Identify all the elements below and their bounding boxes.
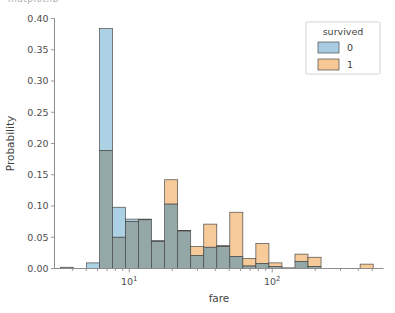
y-tick-label: 0.30 [27, 75, 48, 86]
y-tick-label: 0.35 [27, 44, 48, 55]
histogram-bar [99, 29, 112, 151]
histogram-bar [113, 237, 126, 268]
y-axis-title: Probability [4, 116, 16, 172]
histogram-bar [165, 204, 178, 268]
x-tick-label: 102 [264, 275, 281, 287]
histogram-chart: 0.000.050.100.150.200.250.300.350.401011… [0, 0, 395, 313]
legend-label-1: 1 [347, 59, 353, 70]
histogram-bar [113, 207, 126, 237]
histogram-bar [295, 254, 308, 262]
histogram-bar [126, 219, 139, 222]
x-tick-label: 101 [121, 275, 138, 287]
histogram-bar [243, 259, 256, 267]
histogram-bar [139, 220, 152, 269]
histogram-bar [256, 264, 269, 269]
histogram-bar [308, 257, 321, 266]
histogram-bar [360, 264, 373, 268]
histogram-bar [178, 231, 191, 269]
histogram-bar [126, 222, 139, 269]
histogram-bar [86, 263, 99, 269]
histogram-bar [230, 257, 243, 269]
histogram-bar [230, 212, 243, 256]
histogram-bar [269, 263, 282, 267]
matplotlib-figure: matplotlib 0.000.050.100.150.200.250.300… [0, 0, 395, 313]
y-tick-label: 0.20 [27, 138, 48, 149]
histogram-bar [191, 255, 204, 268]
x-axis-title: fare [209, 292, 230, 304]
histogram-bar [217, 247, 230, 269]
histogram-bar [191, 247, 204, 256]
histogram-bar [204, 247, 217, 268]
y-tick-label: 0.40 [27, 13, 48, 24]
y-tick-label: 0.10 [27, 200, 48, 211]
y-tick-label: 0.25 [27, 107, 48, 118]
legend-swatch-0[interactable] [318, 42, 339, 53]
histogram-bar [152, 242, 165, 269]
histogram-bar [295, 262, 308, 269]
y-tick-label: 0.05 [27, 232, 48, 243]
clipped-header-text: matplotlib [8, 0, 59, 4]
histogram-bar [256, 244, 269, 264]
histogram-bar [99, 150, 112, 268]
legend-label-0: 0 [347, 42, 353, 53]
y-tick-label: 0.00 [27, 263, 48, 274]
y-tick-label: 0.15 [27, 169, 48, 180]
histogram-bar [165, 180, 178, 204]
histogram-bar [204, 224, 217, 247]
legend-title: survived [323, 26, 364, 37]
legend-swatch-1[interactable] [318, 59, 339, 70]
